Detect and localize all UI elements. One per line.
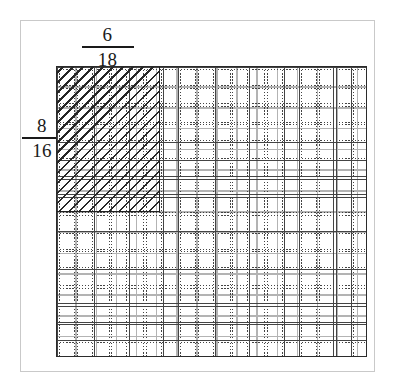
shaded-region-border: [57, 67, 160, 212]
left-fraction-numerator: 8: [35, 116, 49, 136]
left-fraction-denominator: 16: [30, 140, 54, 160]
grid-area: [56, 66, 367, 357]
top-fraction-numerator: 6: [101, 25, 115, 45]
top-fraction-label: 6 18: [82, 25, 134, 69]
shaded-region: [57, 67, 160, 212]
top-fraction-bar: [82, 46, 134, 48]
figure-root: 6 18 8 16: [0, 0, 393, 384]
